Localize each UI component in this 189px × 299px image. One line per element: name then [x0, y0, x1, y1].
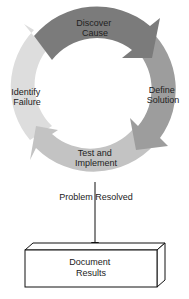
connector-label: Problem Resolved	[59, 192, 133, 202]
step-label-test: Test and Implement	[75, 148, 118, 168]
step-label-identify: Identify Failure	[11, 87, 43, 107]
step-label-define: Define Solution	[147, 85, 180, 105]
process-diagram: Discover Cause Define Solution Test and …	[0, 0, 189, 299]
